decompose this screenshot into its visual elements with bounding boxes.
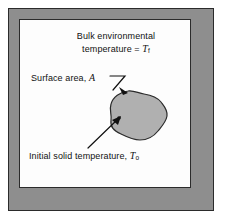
solid-temperature-label: T(t) (120, 116, 135, 129)
bulk-temperature-subscript: f (148, 47, 150, 54)
bulk-temperature-label: Bulk environmental temperature = Tf (0, 31, 232, 56)
lumped-capacitance-figure: Bulk environmental temperature = Tf Surf… (0, 0, 232, 223)
initial-temperature-label: Initial solid temperature, To (29, 150, 139, 164)
initial-temperature-text: Initial solid temperature, (29, 151, 130, 161)
surface-area-label: Surface area, A (31, 72, 95, 85)
bulk-temperature-prefix: temperature = (82, 44, 142, 54)
bulk-temperature-line2: temperature = Tf (0, 43, 232, 57)
initial-temperature-subscript: o (135, 154, 139, 161)
solid-body-label: Solid (118, 104, 139, 116)
surface-area-symbol: A (89, 72, 95, 83)
solid-temperature-argument: (t) (126, 116, 136, 127)
surface-area-text: Surface area, (31, 73, 89, 83)
bulk-temperature-line1: Bulk environmental (0, 31, 232, 43)
